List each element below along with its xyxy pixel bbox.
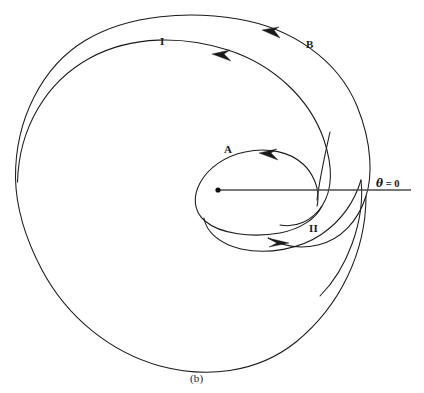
label-inner-loop: A bbox=[224, 144, 232, 155]
label-outer-loop: B bbox=[306, 39, 314, 50]
curve-outer-spiral-b-lower bbox=[16, 178, 367, 372]
orbit-diagram-svg bbox=[0, 0, 424, 393]
label-theta-zero: θ = 0 bbox=[376, 178, 400, 190]
arrowhead-inner-i bbox=[212, 50, 231, 61]
label-branch-two: II bbox=[309, 223, 318, 234]
orbit-figure: I B A II θ = 0 (b) bbox=[0, 0, 424, 393]
curve-inner-spiral-i bbox=[18, 40, 331, 226]
figure-caption: (b) bbox=[190, 373, 203, 384]
arrowhead-outer-b bbox=[262, 27, 280, 38]
label-branch-one: I bbox=[160, 36, 164, 47]
theta-equals-zero-rest: = 0 bbox=[383, 178, 399, 189]
theta-symbol: θ bbox=[376, 177, 383, 189]
focus-point-dot bbox=[215, 187, 220, 192]
